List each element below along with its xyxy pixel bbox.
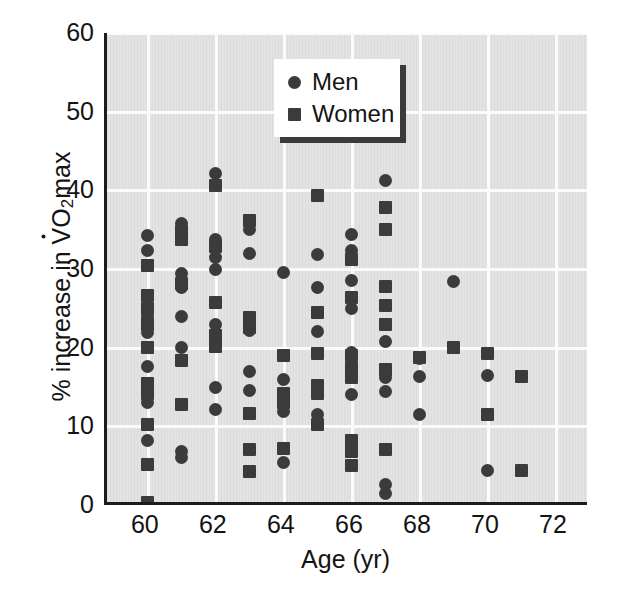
data-point-women bbox=[345, 349, 358, 362]
data-point-women bbox=[311, 347, 324, 360]
data-point-men bbox=[141, 229, 154, 242]
data-point-women bbox=[209, 296, 222, 309]
y-axis-label: % increase in VO2max bbox=[48, 42, 81, 512]
data-point-women bbox=[413, 351, 426, 364]
data-point-women bbox=[141, 387, 154, 400]
legend-label-men: Men bbox=[312, 70, 359, 94]
data-point-women bbox=[345, 371, 358, 384]
data-point-men bbox=[345, 228, 358, 241]
data-point-men bbox=[413, 408, 426, 421]
data-point-women bbox=[345, 253, 358, 266]
data-point-women bbox=[345, 445, 358, 458]
data-point-men bbox=[175, 310, 188, 323]
x-axis-label: Age (yr) bbox=[104, 546, 587, 572]
data-point-women bbox=[379, 280, 392, 293]
data-point-women bbox=[175, 354, 188, 367]
gridline-y-10 bbox=[107, 425, 587, 428]
x-tick-label-70: 70 bbox=[455, 512, 515, 537]
data-point-men bbox=[243, 365, 256, 378]
data-point-men bbox=[141, 244, 154, 257]
data-point-men bbox=[141, 360, 154, 373]
data-point-women bbox=[345, 459, 358, 472]
data-point-women bbox=[141, 318, 154, 331]
data-point-women bbox=[243, 407, 256, 420]
data-point-women bbox=[379, 443, 392, 456]
data-point-men bbox=[379, 385, 392, 398]
data-point-women bbox=[243, 214, 256, 227]
data-point-women bbox=[209, 179, 222, 192]
data-point-men bbox=[175, 451, 188, 464]
data-point-women bbox=[141, 458, 154, 471]
data-point-women bbox=[515, 370, 528, 383]
data-point-men bbox=[481, 464, 494, 477]
data-point-men bbox=[175, 341, 188, 354]
data-point-men bbox=[481, 369, 494, 382]
data-point-women bbox=[141, 341, 154, 354]
data-point-men bbox=[311, 325, 324, 338]
legend-square-icon bbox=[288, 108, 301, 121]
data-point-men bbox=[243, 384, 256, 397]
data-point-women bbox=[481, 347, 494, 360]
data-point-women bbox=[447, 341, 460, 354]
data-point-men bbox=[311, 281, 324, 294]
x-tick-label-62: 62 bbox=[183, 512, 243, 537]
data-point-women bbox=[311, 189, 324, 202]
data-point-women bbox=[243, 443, 256, 456]
data-point-men bbox=[243, 247, 256, 260]
x-tick-label-60: 60 bbox=[115, 512, 175, 537]
data-point-women bbox=[379, 363, 392, 376]
data-point-men bbox=[209, 167, 222, 180]
data-point-women bbox=[515, 464, 528, 477]
data-point-men bbox=[311, 248, 324, 261]
data-point-men bbox=[379, 487, 392, 500]
legend-entry-women: Women bbox=[288, 99, 394, 129]
y-axis-label-prefix: % increase in bbox=[47, 244, 75, 401]
data-point-men bbox=[141, 434, 154, 447]
data-point-women bbox=[379, 299, 392, 312]
data-point-women bbox=[141, 259, 154, 272]
legend-label-women: Women bbox=[312, 102, 394, 126]
data-point-women bbox=[311, 387, 324, 400]
o-symbol: O bbox=[47, 208, 75, 227]
data-point-men bbox=[209, 403, 222, 416]
data-point-men bbox=[277, 456, 290, 469]
x-tick-label-66: 66 bbox=[319, 512, 379, 537]
x-tick-label-68: 68 bbox=[387, 512, 447, 537]
data-point-women bbox=[379, 223, 392, 236]
legend-entry-men: Men bbox=[288, 67, 359, 97]
data-point-men bbox=[345, 274, 358, 287]
data-point-men bbox=[277, 373, 290, 386]
gridline-y-60 bbox=[107, 33, 587, 35]
data-point-women bbox=[379, 201, 392, 214]
data-point-women bbox=[311, 418, 324, 431]
gridline-x-72 bbox=[555, 33, 558, 502]
legend-box: Men Women bbox=[274, 59, 400, 137]
data-point-women bbox=[175, 277, 188, 290]
scatter-plot-figure: 0102030405060 60626466687072 Age (yr) % … bbox=[0, 0, 618, 597]
data-point-women bbox=[345, 291, 358, 304]
data-point-men bbox=[345, 388, 358, 401]
data-point-women bbox=[209, 340, 222, 353]
data-point-women bbox=[243, 465, 256, 478]
data-point-women bbox=[277, 442, 290, 455]
data-point-women bbox=[277, 396, 290, 409]
data-point-women bbox=[209, 240, 222, 253]
data-point-women bbox=[243, 321, 256, 334]
gridline-x-70 bbox=[487, 33, 490, 502]
data-point-women bbox=[141, 496, 154, 505]
data-point-men bbox=[413, 370, 426, 383]
x-tick-label-72: 72 bbox=[523, 512, 583, 537]
data-point-women bbox=[141, 302, 154, 315]
data-point-women bbox=[481, 408, 494, 421]
data-point-men bbox=[379, 174, 392, 187]
v-dot-symbol: V bbox=[48, 228, 74, 245]
data-point-women bbox=[311, 306, 324, 319]
x-tick-label-64: 64 bbox=[251, 512, 311, 537]
data-point-men bbox=[209, 263, 222, 276]
o2-subscript: 2 bbox=[58, 199, 77, 208]
data-point-women bbox=[141, 289, 154, 302]
legend-circle-icon bbox=[288, 76, 301, 89]
data-point-men bbox=[209, 381, 222, 394]
data-point-women bbox=[277, 349, 290, 362]
gridline-y-40 bbox=[107, 189, 587, 192]
